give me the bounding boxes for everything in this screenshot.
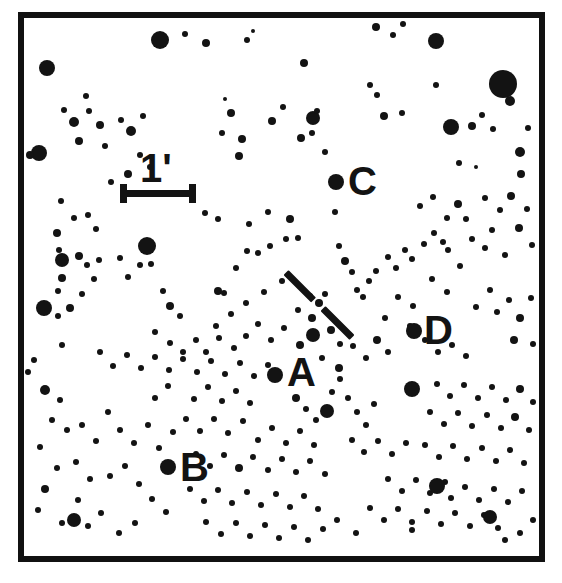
star-dot (238, 135, 246, 143)
star-dot (297, 428, 303, 434)
scale-bar-cap-right (189, 184, 196, 203)
star-dot (454, 200, 462, 208)
star-dot (363, 355, 369, 361)
star-dot (399, 110, 405, 116)
star-dot (54, 465, 60, 471)
star-dot (61, 107, 67, 113)
comparison-star-c-dot (328, 174, 344, 190)
star-dot (255, 250, 261, 256)
comparison-star-d-dot (406, 323, 422, 339)
star-dot (145, 422, 151, 428)
star-dot (227, 109, 235, 117)
star-dot (265, 467, 271, 473)
star-dot (219, 398, 225, 404)
star-dot (93, 438, 99, 444)
star-dot (395, 294, 401, 300)
star-dot (497, 207, 503, 213)
star-dot (25, 369, 31, 375)
star-dot (41, 485, 49, 493)
star-dot (244, 489, 250, 495)
star-dot (409, 527, 415, 533)
star-dot (424, 508, 430, 514)
star-dot (375, 438, 381, 444)
star-dot (385, 476, 391, 482)
star-dot (503, 397, 509, 403)
star-dot (229, 500, 235, 506)
star-dot (243, 300, 249, 306)
star-dot (203, 349, 209, 355)
comparison-star-label-c: C (348, 161, 377, 201)
star-dot (399, 488, 405, 494)
star-dot (473, 304, 479, 310)
star-dot (529, 242, 535, 248)
star-dot (93, 226, 99, 232)
star-dot (31, 357, 37, 363)
star-dot (213, 323, 219, 329)
star-dot (530, 341, 536, 347)
star-dot (55, 253, 69, 267)
star-dot (73, 459, 79, 465)
star-dot (64, 427, 70, 433)
star-dot (191, 396, 197, 402)
star-dot (152, 329, 158, 335)
star-dot (292, 394, 300, 402)
star-dot (447, 393, 453, 399)
star-dot (491, 486, 497, 492)
star-dot (39, 60, 55, 76)
star-dot (231, 345, 237, 351)
scale-bar-line (120, 190, 196, 197)
star-dot (66, 304, 74, 312)
star-dot (345, 395, 351, 401)
star-dot (91, 276, 97, 282)
star-dot (194, 369, 200, 375)
star-dot (320, 526, 326, 532)
star-dot (367, 82, 373, 88)
star-dot (126, 126, 136, 136)
star-dot (403, 440, 409, 446)
star-dot (160, 288, 166, 294)
star-dot (309, 130, 315, 136)
star-dot (251, 373, 257, 379)
star-dot (502, 252, 508, 258)
star-dot (476, 497, 482, 503)
star-dot (498, 425, 504, 431)
star-dot (152, 395, 158, 401)
star-dot (335, 364, 343, 372)
star-dot (138, 237, 156, 255)
star-dot (117, 427, 123, 433)
star-dot (528, 295, 534, 301)
scale-bar-label: 1' (140, 148, 172, 188)
star-dot (308, 314, 316, 322)
star-dot (490, 126, 496, 132)
star-dot (464, 456, 470, 462)
star-dot (410, 303, 416, 309)
star-dot (315, 506, 321, 512)
star-dot (372, 23, 380, 31)
star-dot (400, 21, 406, 27)
star-dot (521, 460, 527, 466)
star-dot (306, 328, 320, 342)
star-dot (506, 297, 512, 303)
star-dot (244, 37, 250, 43)
star-dot (233, 388, 239, 394)
star-dot (510, 336, 518, 344)
star-dot (516, 314, 524, 322)
star-dot (475, 395, 481, 401)
star-dot (427, 409, 433, 415)
star-dot (203, 519, 209, 525)
star-dot (96, 121, 104, 129)
chart-frame-border: 1' ABCD (18, 12, 545, 562)
star-dot (441, 421, 447, 427)
star-dot (334, 517, 340, 523)
star-dot (221, 290, 227, 296)
star-dot (295, 307, 301, 313)
star-dot (281, 325, 287, 331)
star-dot (430, 194, 436, 200)
star-dot (409, 256, 415, 262)
star-dot (122, 463, 128, 469)
star-dot (182, 31, 188, 37)
star-dot (246, 221, 252, 227)
star-dot (202, 210, 208, 216)
star-dot (431, 230, 437, 236)
star-dot (483, 510, 497, 524)
